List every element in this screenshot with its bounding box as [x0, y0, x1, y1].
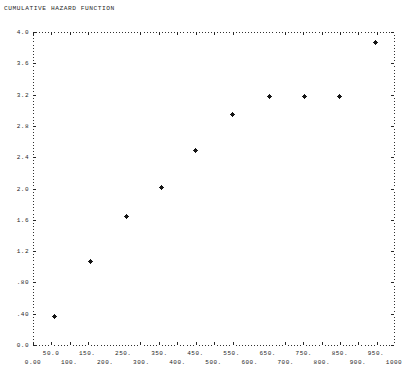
axis-tick-mark — [33, 45, 34, 46]
data-point — [373, 40, 378, 45]
axis-tick-mark — [140, 32, 141, 35]
axis-tick-mark — [193, 345, 194, 346]
axis-tick-mark — [394, 339, 395, 340]
axis-tick-mark — [394, 276, 395, 277]
axis-tick-mark — [394, 223, 395, 224]
chart-title: CUMULATIVE HAZARD FUNCTION — [4, 5, 115, 12]
chart-page: CUMULATIVE HAZARD FUNCTION 0.0.40.801.21… — [0, 0, 404, 371]
axis-tick-mark — [214, 342, 215, 345]
axis-tick-mark — [394, 332, 395, 333]
x-axis-tick-label-upper: 150. — [72, 350, 102, 357]
axis-tick-mark — [291, 32, 292, 33]
axis-tick-mark — [394, 192, 395, 193]
axis-tick-mark — [394, 151, 395, 152]
axis-tick-mark — [33, 60, 34, 61]
axis-tick-mark — [325, 32, 326, 33]
axis-tick-mark — [125, 345, 126, 346]
axis-tick-mark — [374, 32, 375, 33]
axis-tick-mark — [33, 142, 34, 143]
axis-tick-mark — [391, 251, 394, 252]
axis-tick-mark — [394, 167, 395, 168]
axis-tick-mark — [137, 345, 138, 346]
axis-tick-mark — [33, 104, 34, 105]
axis-tick-mark — [134, 32, 135, 33]
axis-tick-mark — [394, 239, 395, 240]
axis-tick-mark — [386, 32, 387, 33]
axis-tick-mark — [61, 32, 62, 33]
axis-tick-mark — [85, 32, 86, 33]
axis-tick-mark — [156, 32, 157, 33]
axis-tick-mark — [315, 345, 316, 346]
axis-tick-mark — [394, 138, 395, 139]
axis-tick-mark — [233, 32, 234, 35]
axis-tick-mark — [236, 345, 237, 346]
axis-tick-mark — [349, 32, 350, 33]
axis-tick-mark — [33, 223, 34, 224]
axis-tick-mark — [394, 317, 395, 318]
axis-tick-mark — [306, 345, 307, 346]
axis-tick-mark — [33, 163, 34, 164]
axis-tick-mark — [394, 76, 395, 77]
axis-tick-mark — [33, 129, 34, 130]
axis-tick-mark — [263, 345, 264, 346]
data-point — [88, 259, 93, 264]
axis-tick-mark — [33, 307, 34, 308]
axis-tick-mark — [33, 151, 34, 152]
y-axis-tick-label: 2.8 — [0, 123, 29, 130]
axis-tick-mark — [33, 320, 34, 321]
axis-tick-mark — [394, 179, 395, 180]
axis-tick-mark — [374, 345, 375, 346]
axis-tick-mark — [394, 248, 395, 249]
axis-tick-mark — [125, 32, 126, 33]
axis-tick-mark — [394, 226, 395, 227]
axis-tick-mark — [394, 148, 395, 149]
axis-tick-mark — [33, 32, 34, 35]
axis-tick-mark — [394, 176, 395, 177]
axis-tick-mark — [107, 345, 108, 346]
x-axis-tick-label-lower: 400. — [162, 359, 192, 366]
axis-tick-mark — [285, 342, 286, 345]
axis-tick-mark — [51, 32, 52, 35]
axis-tick-mark — [33, 32, 36, 33]
axis-tick-mark — [325, 345, 326, 346]
x-axis-tick-label-upper: 650. — [253, 350, 283, 357]
axis-tick-mark — [33, 170, 34, 171]
axis-tick-mark — [54, 345, 55, 346]
axis-tick-mark — [391, 126, 394, 127]
axis-tick-mark — [343, 345, 344, 346]
axis-tick-mark — [322, 342, 323, 345]
axis-tick-mark — [394, 82, 395, 83]
data-point-core — [53, 315, 56, 318]
axis-tick-mark — [190, 32, 191, 33]
axis-tick-mark — [33, 229, 34, 230]
axis-tick-mark — [187, 32, 188, 33]
axis-tick-mark — [297, 32, 298, 33]
axis-tick-mark — [394, 48, 395, 49]
axis-tick-mark — [122, 32, 123, 33]
axis-tick-mark — [168, 345, 169, 346]
axis-tick-mark — [76, 32, 77, 33]
axis-tick-mark — [104, 345, 105, 346]
data-point — [193, 148, 198, 153]
axis-tick-mark — [33, 101, 34, 102]
axis-tick-mark — [358, 32, 359, 35]
axis-tick-mark — [119, 32, 120, 33]
axis-tick-mark — [315, 32, 316, 33]
axis-tick-mark — [190, 345, 191, 346]
axis-tick-mark — [322, 32, 323, 35]
axis-tick-mark — [394, 135, 395, 136]
axis-tick-mark — [147, 345, 148, 346]
axis-tick-mark — [208, 32, 209, 33]
axis-tick-mark — [394, 54, 395, 55]
axis-tick-mark — [355, 32, 356, 33]
axis-tick-mark — [33, 113, 34, 114]
axis-tick-mark — [33, 248, 34, 249]
axis-tick-mark — [177, 342, 178, 345]
axis-tick-mark — [391, 95, 394, 96]
axis-tick-mark — [88, 32, 89, 35]
axis-tick-mark — [64, 345, 65, 346]
axis-tick-mark — [159, 342, 160, 345]
data-point — [267, 94, 272, 99]
axis-tick-mark — [394, 185, 395, 186]
axis-tick-mark — [70, 342, 71, 345]
